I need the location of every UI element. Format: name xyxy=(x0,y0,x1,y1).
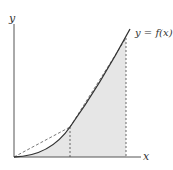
x-axis-label: x xyxy=(143,150,150,163)
curve-label: y = f(x) xyxy=(134,27,173,38)
diagram-canvas: y x y = f(x) xyxy=(0,0,173,170)
trapezoid-rule-figure: y x y = f(x) xyxy=(0,0,173,170)
y-axis-label: y xyxy=(8,12,16,25)
